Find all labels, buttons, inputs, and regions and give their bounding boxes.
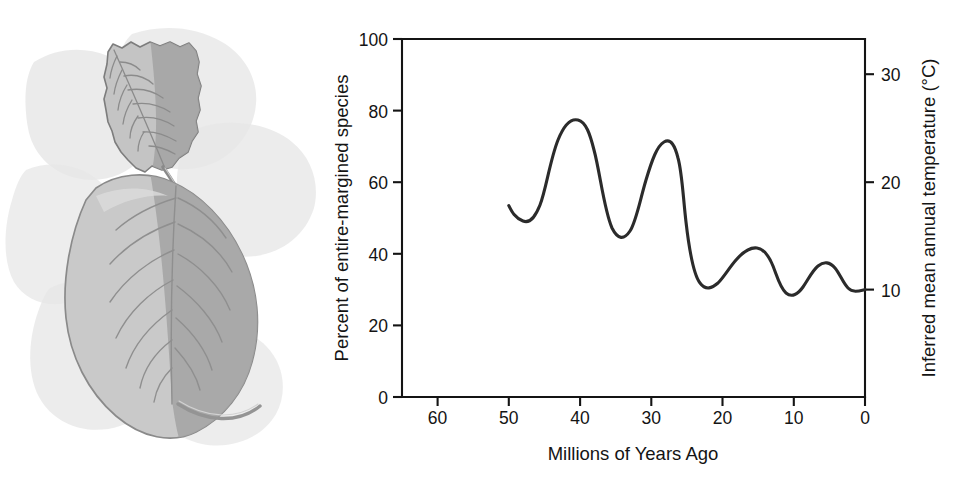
- y2-ticklabel-20: 20: [881, 173, 901, 193]
- y-axis-ticks-right: [865, 74, 874, 289]
- x-ticklabel-60: 60: [428, 408, 448, 428]
- y-axis-ticks-left: [393, 39, 402, 397]
- x-axis-title: Millions of Years Ago: [548, 443, 719, 464]
- leaf-illustration: [0, 0, 330, 478]
- y-ticklabel-100: 100: [359, 30, 388, 50]
- y2-ticklabel-30: 30: [881, 65, 901, 85]
- y-ticklabel-20: 20: [369, 316, 389, 336]
- y-axis-ticklabels-right: 30 20 10: [881, 65, 901, 300]
- y-ticklabel-40: 40: [369, 245, 389, 265]
- figure-root: 100 80 60 40 20 0 30 20 10: [0, 0, 971, 478]
- y2-ticklabel-10: 10: [881, 281, 901, 301]
- data-series-line: [509, 120, 865, 296]
- y-ticklabel-60: 60: [369, 173, 389, 193]
- x-ticklabel-10: 10: [784, 408, 804, 428]
- x-ticklabel-40: 40: [570, 408, 590, 428]
- x-ticklabel-0: 0: [860, 408, 870, 428]
- x-axis-ticklabels: 60 50 40 30 20 10 0: [428, 408, 870, 428]
- x-ticklabel-50: 50: [499, 408, 519, 428]
- x-ticklabel-30: 30: [642, 408, 662, 428]
- y-axis-ticklabels-left: 100 80 60 40 20 0: [359, 30, 388, 408]
- y-ticklabel-0: 0: [378, 388, 388, 408]
- chart-panel: 100 80 60 40 20 0 30 20 10: [330, 0, 971, 478]
- x-ticklabel-20: 20: [713, 408, 733, 428]
- y-axis-title-left: Percent of entire-margined species: [331, 75, 352, 362]
- plot-frame: [402, 39, 865, 397]
- y-ticklabel-80: 80: [369, 102, 389, 122]
- y-axis-title-right: Inferred mean annual temperature (°C): [918, 59, 939, 378]
- x-axis-ticks: [438, 397, 865, 406]
